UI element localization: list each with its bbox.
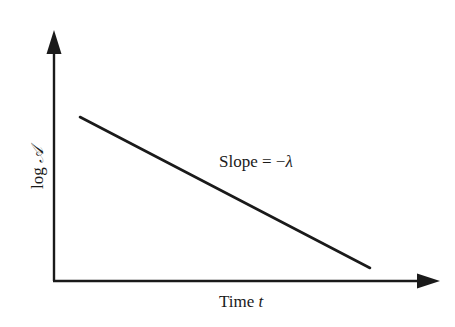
- x-axis-label-text: Time: [219, 292, 259, 311]
- x-axis-label: Time t: [219, 292, 263, 312]
- y-axis-label-symbol: 𝒜: [28, 147, 47, 163]
- x-axis-label-symbol: t: [259, 292, 264, 311]
- y-axis-arrow-icon: [47, 30, 62, 54]
- slope-annotation-symbol: λ: [285, 152, 292, 171]
- y-axis-label-text: log: [28, 163, 47, 189]
- slope-annotation-text: Slope = −: [219, 152, 285, 171]
- slope-annotation: Slope = −λ: [219, 152, 293, 172]
- y-axis-label: log 𝒜: [28, 147, 48, 189]
- decay-line: [80, 117, 370, 268]
- chart-figure: log 𝒜 Time t Slope = −λ: [0, 0, 455, 327]
- x-axis-arrow-icon: [417, 274, 440, 289]
